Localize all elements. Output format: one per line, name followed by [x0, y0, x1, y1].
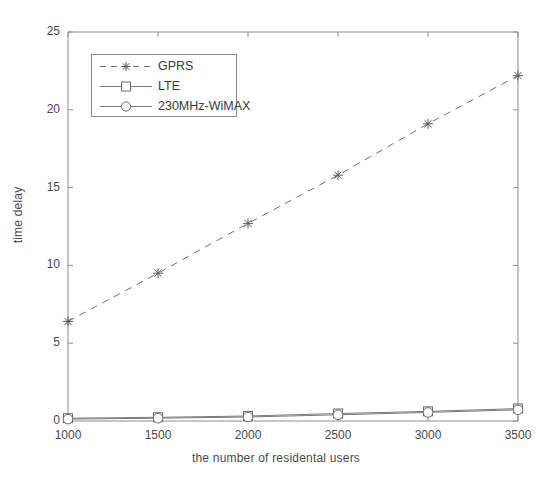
x-axis-label: the number of residental users [0, 451, 552, 465]
y-tick-label: 0 [20, 413, 60, 427]
legend-label-wimax: 230MHz-WiMAX [158, 98, 250, 115]
chart-figure: the number of residental users time dela… [0, 0, 552, 481]
legend-item-gprs: GPRS [92, 56, 236, 77]
y-tick-label: 10 [20, 257, 60, 271]
x-tick-label: 2000 [218, 428, 278, 442]
legend-item-wimax: 230MHz-WiMAX [92, 96, 236, 117]
x-tick-label: 3500 [488, 428, 548, 442]
legend-label-gprs: GPRS [158, 58, 193, 75]
data-series [63, 71, 523, 424]
x-tick-label: 3000 [398, 428, 458, 442]
legend-line-wimax [96, 96, 156, 117]
x-tick-label: 2500 [308, 428, 368, 442]
y-tick-label: 20 [20, 102, 60, 116]
legend-item-lte: LTE [92, 76, 236, 97]
legend-line-lte [96, 76, 156, 97]
y-tick-label: 25 [20, 24, 60, 38]
y-tick-label: 15 [20, 180, 60, 194]
legend-line-gprs [96, 56, 156, 77]
plot-canvas [0, 0, 552, 481]
y-tick-label: 5 [20, 335, 60, 349]
legend: GPRS LTE 230MHz-WiMAX [91, 54, 237, 117]
legend-label-lte: LTE [158, 78, 180, 95]
x-tick-label: 1500 [128, 428, 188, 442]
x-tick-label: 1000 [38, 428, 98, 442]
